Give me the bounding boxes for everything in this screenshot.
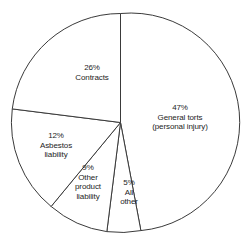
pie-label-name-line2: liability [18,150,94,160]
pie-chart: 47% General torts (personal injury) 26% … [0,0,241,242]
pie-label-asbestos-liability: 12% Asbestos liability [18,131,94,160]
pie-label-percent: 12% [18,131,94,141]
pie-label-name-line1: General torts [134,113,226,123]
pie-label-name-line2: (personal injury) [134,122,226,132]
pie-label-all-other: 5% All other [108,178,150,207]
pie-label-general-torts: 47% General torts (personal injury) [134,103,226,132]
pie-label-percent: 26% [46,63,138,73]
pie-label-name-line1: Asbestos [18,141,94,151]
pie-label-contracts: 26% Contracts [46,63,138,82]
pie-label-percent: 47% [134,103,226,113]
pie-label-name-line1: All [108,188,150,198]
pie-label-percent: 9% [58,163,118,173]
pie-label-percent: 5% [108,178,150,188]
pie-label-name-line1: Contracts [46,73,138,83]
pie-label-name-line2: other [108,197,150,207]
